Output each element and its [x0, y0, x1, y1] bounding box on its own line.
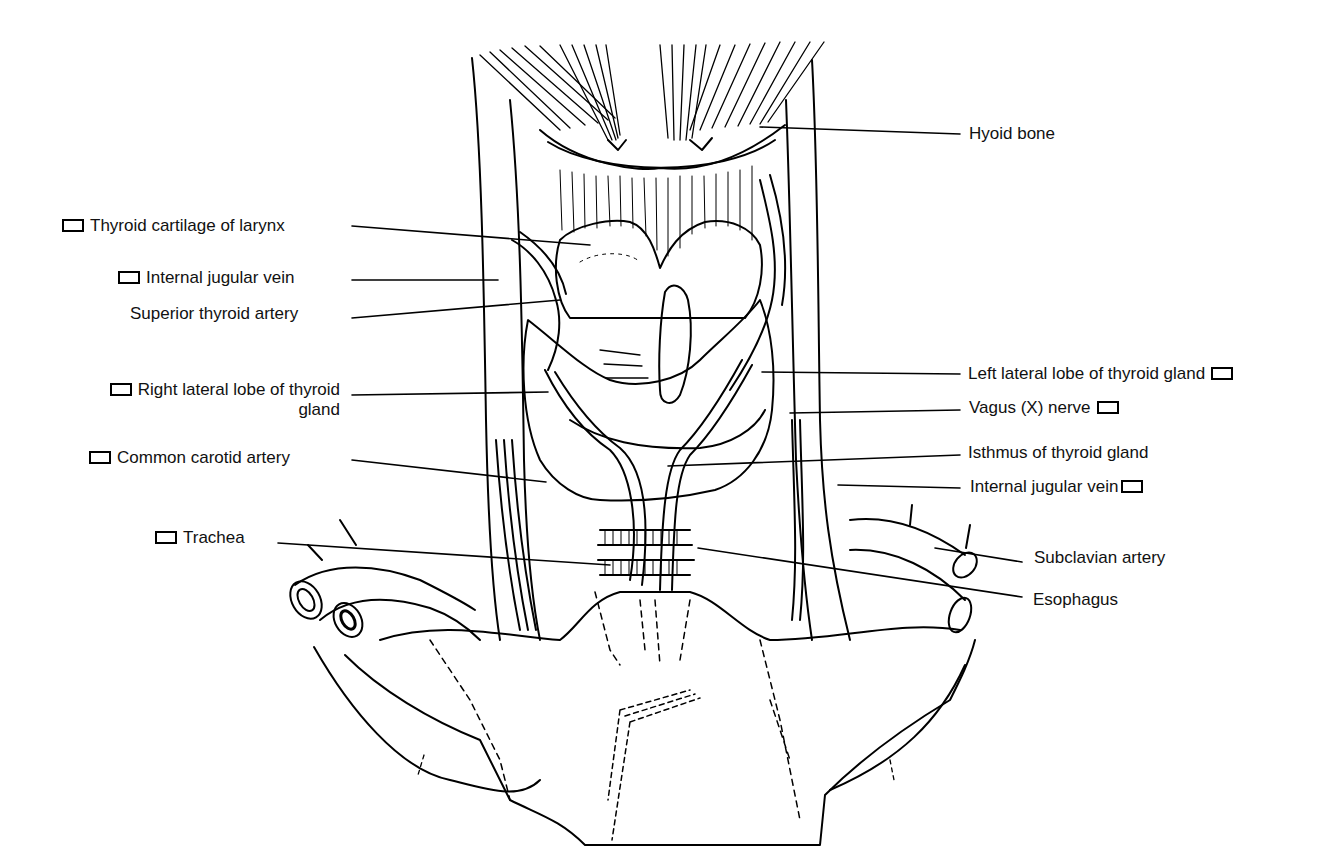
leader-subclavian-artery — [935, 548, 1022, 562]
answer-checkbox[interactable] — [62, 219, 84, 232]
leader-common-carotid-artery — [352, 460, 546, 482]
blood-vessels — [496, 175, 803, 630]
thyroid-cartilage — [556, 221, 762, 318]
label-esophagus: Esophagus — [1033, 590, 1118, 610]
label-common-carotid-artery: Common carotid artery — [89, 448, 290, 468]
label-left-lateral-lobe: Left lateral lobe of thyroid gland — [968, 364, 1233, 384]
leader-thyroid-cartilage — [352, 226, 590, 245]
answer-checkbox[interactable] — [110, 383, 132, 396]
leader-superior-thyroid-artery — [352, 300, 560, 318]
leader-internal-jugular-vein-left — [838, 485, 960, 488]
sternum-clavicles — [314, 592, 975, 845]
label-right-lateral-lobe: Right lateral lobe of thyroid gland — [53, 380, 340, 420]
label-internal-jugular-vein-right: Internal jugular vein — [118, 268, 294, 288]
label-hyoid-bone: Hyoid bone — [969, 124, 1055, 144]
leader-trachea — [278, 543, 610, 565]
label-vagus-nerve: Vagus (X) nerve — [969, 398, 1119, 418]
label-subclavian-artery: Subclavian artery — [1034, 548, 1165, 568]
subclavian-arteries — [284, 505, 982, 642]
answer-checkbox[interactable] — [1121, 480, 1143, 493]
hyoid-bone — [540, 125, 785, 169]
leader-isthmus — [668, 455, 960, 466]
leader-left-lateral-lobe — [762, 372, 960, 374]
label-isthmus: Isthmus of thyroid gland — [968, 443, 1148, 463]
neck-anatomy-illustration — [0, 0, 1344, 861]
answer-checkbox[interactable] — [89, 451, 111, 464]
thyrohyoid-membrane — [560, 166, 752, 256]
label-trachea: Trachea — [155, 528, 245, 548]
leader-right-lateral-lobe — [352, 392, 548, 395]
label-superior-thyroid-artery: Superior thyroid artery — [130, 304, 298, 324]
leader-esophagus — [698, 548, 1022, 597]
label-internal-jugular-vein-left: Internal jugular vein — [970, 477, 1143, 497]
answer-checkbox[interactable] — [155, 531, 177, 544]
answer-checkbox[interactable] — [1097, 401, 1119, 414]
answer-checkbox[interactable] — [1211, 367, 1233, 380]
label-thyroid-cartilage: Thyroid cartilage of larynx — [62, 216, 285, 236]
leader-hyoid-bone — [760, 127, 960, 134]
leader-vagus-nerve — [790, 410, 960, 413]
answer-checkbox[interactable] — [118, 271, 140, 284]
